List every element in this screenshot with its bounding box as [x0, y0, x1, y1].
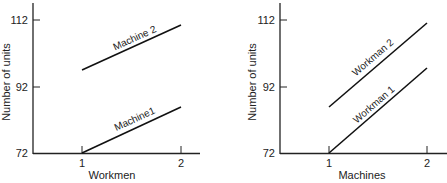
chart-figure: 112 92 72 1 2 Workmen Number of units Ma… [0, 0, 447, 183]
x-axis-label: Machines [338, 169, 386, 181]
chart-right: 112 92 72 1 2 Machines Number of units W… [246, 3, 447, 181]
series-line-machine-2 [82, 25, 181, 70]
series-label-workman-2: Workman 2 [350, 36, 396, 78]
y-tick-label: 112 [257, 14, 275, 26]
series-label-workman-1: Workman 1 [351, 83, 397, 125]
x-tick-label: 2 [424, 157, 430, 169]
x-tick-label: 1 [79, 157, 85, 169]
chart-left: 112 92 72 1 2 Workmen Number of units Ma… [0, 3, 200, 181]
series-line-workman-1 [329, 68, 427, 153]
y-tick-label: 72 [263, 147, 275, 159]
y-tick-label: 112 [10, 14, 28, 26]
y-tick-label: 92 [263, 81, 275, 93]
y-tick-label: 72 [16, 147, 28, 159]
x-axis-label: Workmen [89, 169, 136, 181]
x-tick-label: 1 [326, 157, 332, 169]
y-tick-label: 92 [16, 81, 28, 93]
y-axis-label: Number of units [246, 43, 258, 121]
x-tick-label: 2 [178, 157, 184, 169]
y-axis-label: Number of units [0, 43, 12, 121]
